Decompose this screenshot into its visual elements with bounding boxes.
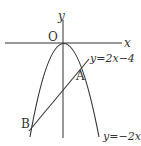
line-equation-label: y=2x−4	[90, 53, 135, 64]
graph-figure: y O x A B y=2x−4 y=−2x²	[0, 0, 141, 146]
parabola-equation-label: y=−2x²	[103, 131, 141, 142]
point-b-label: B	[21, 118, 30, 130]
y-axis-label: y	[58, 10, 65, 22]
origin-label: O	[48, 31, 58, 43]
point-a-label: A	[76, 70, 85, 82]
x-axis-label: x	[124, 37, 131, 49]
parabola-curve	[30, 44, 99, 138]
